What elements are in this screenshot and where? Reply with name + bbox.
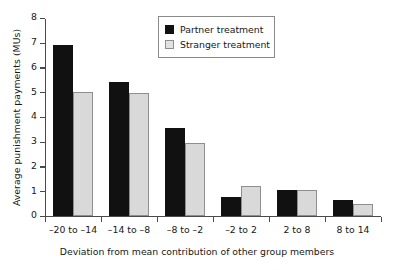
x-tick-label: 8 to 14 [325,224,381,236]
bar-partner [165,128,185,216]
legend-swatch-partner [165,25,174,34]
x-tick [269,217,270,222]
bar-partner [53,45,73,216]
x-tick-label: –20 to –14 [45,224,101,236]
y-tick: 4 [40,117,45,118]
y-tick-label: 8 [31,11,37,23]
x-tick [213,217,214,222]
legend-item: Stranger treatment [165,37,267,52]
legend-label: Stranger treatment [180,39,270,51]
y-tick-label: 2 [31,160,37,172]
x-tick-label: –8 to –2 [157,224,213,236]
x-tick [45,217,46,222]
y-tick: 6 [40,67,45,68]
x-tick-label: 2 to 8 [269,224,325,236]
y-tick-label: 7 [31,36,37,48]
chart-legend: Partner treatmentStranger treatment [158,16,275,58]
x-tick [157,217,158,222]
bar-group [53,19,93,216]
y-tick: 8 [40,18,45,19]
y-tick-label: 6 [31,61,37,73]
y-tick-label: 0 [31,209,37,221]
legend-swatch-stranger [165,40,174,49]
x-tick [381,217,382,222]
bar-stranger [241,186,261,216]
bar-group [333,19,373,216]
bar-partner [333,200,353,216]
x-axis-title: Deviation from mean contribution of othe… [0,246,394,257]
bar-stranger [353,204,373,215]
x-tick-label: –14 to –8 [101,224,157,236]
bar-group [109,19,149,216]
bar-stranger [185,143,205,216]
bar-chart-figure: Average punishment payments (MUs) 012345… [0,0,394,270]
y-tick-label: 3 [31,135,37,147]
y-tick-label: 5 [31,86,37,98]
y-tick-label: 4 [31,110,37,122]
y-tick: 3 [40,142,45,143]
bar-partner [221,197,241,216]
bar-stranger [297,190,317,216]
bar-group [277,19,317,216]
x-tick [101,217,102,222]
bar-stranger [73,92,93,216]
legend-item: Partner treatment [165,22,267,37]
y-tick: 7 [40,43,45,44]
y-tick-label: 1 [31,185,37,197]
y-tick: 5 [40,92,45,93]
y-axis-title: Average punishment payments (MUs) [11,18,22,218]
bar-stranger [129,93,149,216]
legend-label: Partner treatment [180,24,263,36]
bar-partner [109,82,129,216]
y-tick: 1 [40,191,45,192]
bar-partner [277,190,297,216]
x-tick-label: –2 to 2 [213,224,269,236]
y-tick: 2 [40,166,45,167]
y-axis-line [45,19,46,217]
x-tick [325,217,326,222]
